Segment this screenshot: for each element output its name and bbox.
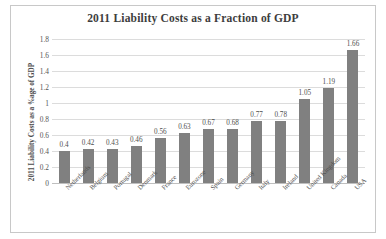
- x-label-slot: France: [148, 183, 172, 239]
- bar-value-label: 0.68: [226, 119, 239, 127]
- bar-value-label: 1.05: [299, 89, 312, 97]
- bar[interactable]: [299, 99, 310, 183]
- y-tick-label: 1.6: [40, 51, 49, 60]
- bar-slot: 0.63: [172, 39, 196, 183]
- bar-value-label: 0.56: [154, 128, 167, 136]
- y-tick-label: 0.8: [40, 115, 49, 124]
- x-label-slot: Netherlands: [52, 183, 76, 239]
- x-label-slot: Italy: [245, 183, 269, 239]
- bar-slot: 0.67: [196, 39, 220, 183]
- x-label-slot: United Kingdom: [293, 183, 317, 239]
- bar-slot: 0.43: [100, 39, 124, 183]
- bar-value-label: 0.67: [202, 119, 215, 127]
- x-label-slot: Eurozone: [172, 183, 196, 239]
- x-label-slot: Denmark: [124, 183, 148, 239]
- bar-slot: 0.78: [269, 39, 293, 183]
- chart-container: 2011 Liability Costs as a Fraction of GD…: [10, 5, 376, 233]
- x-label-slot: Belgium: [76, 183, 100, 239]
- bar-slot: 0.42: [76, 39, 100, 183]
- bar[interactable]: [155, 138, 166, 183]
- y-tick-label: 0.6: [40, 131, 49, 140]
- bar-value-label: 0.77: [250, 111, 263, 119]
- bar-slot: 0.68: [221, 39, 245, 183]
- y-tick-label: 0.4: [40, 147, 49, 156]
- y-tick-label: 0.2: [40, 163, 49, 172]
- bar-value-label: 0.46: [130, 136, 143, 144]
- bar[interactable]: [107, 149, 118, 183]
- bar-slot: 1.66: [341, 39, 365, 183]
- bar-value-label: 0.4: [60, 141, 69, 149]
- bar[interactable]: [179, 133, 190, 183]
- bar[interactable]: [131, 146, 142, 183]
- x-label-slot: USA: [341, 183, 365, 239]
- y-tick-label: 1.4: [40, 67, 49, 76]
- bar-value-label: 0.42: [82, 139, 95, 147]
- bar-value-label: 1.19: [323, 78, 336, 86]
- bar-value-label: 0.43: [106, 139, 119, 147]
- bar-slot: 0.46: [124, 39, 148, 183]
- x-label-slot: Ireland: [269, 183, 293, 239]
- x-axis-labels: NetherlandsBelgiumPortugalDenmarkFranceE…: [52, 183, 365, 239]
- x-label-slot: Spain: [196, 183, 220, 239]
- x-label-slot: Portugal: [100, 183, 124, 239]
- bar[interactable]: [59, 151, 70, 183]
- bar[interactable]: [227, 129, 238, 183]
- bar-slot: 1.05: [293, 39, 317, 183]
- y-tick-label: 1.8: [40, 35, 49, 44]
- bar-slot: 0.77: [245, 39, 269, 183]
- y-tick-label: 1.2: [40, 83, 49, 92]
- plot-area: 00.20.40.60.811.21.41.61.8 0.40.420.430.…: [52, 39, 365, 183]
- bar[interactable]: [275, 121, 286, 183]
- y-tick-label: 1: [45, 99, 49, 108]
- bar-value-label: 0.78: [274, 111, 287, 119]
- bar-value-label: 1.66: [347, 40, 360, 48]
- bar-slot: 0.56: [148, 39, 172, 183]
- x-label-slot: Germany: [221, 183, 245, 239]
- y-tick-label: 0: [45, 179, 49, 188]
- y-axis-title: 2011 Liability Costs as a %age of GDP: [28, 47, 36, 197]
- bar-slot: 0.4: [52, 39, 76, 183]
- chart-title: 2011 Liability Costs as a Fraction of GD…: [11, 12, 375, 24]
- bar[interactable]: [347, 50, 358, 183]
- bar-value-label: 0.63: [178, 123, 191, 131]
- bar-series: 0.40.420.430.460.560.630.670.680.770.781…: [52, 39, 365, 183]
- x-label-slot: Canada: [317, 183, 341, 239]
